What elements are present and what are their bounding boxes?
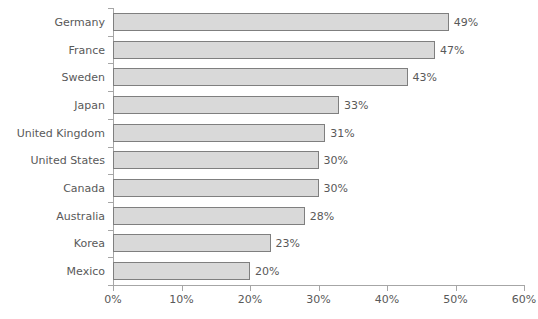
bar[interactable] [113, 96, 339, 114]
bar-row: 43% [113, 63, 524, 91]
x-axis-tick [387, 286, 388, 291]
bar[interactable] [113, 234, 271, 252]
bar-row: 23% [113, 230, 524, 258]
category-label-row: Canada [0, 174, 105, 202]
category-label: Korea [74, 238, 105, 249]
bar-row: 20% [113, 257, 524, 285]
bar-value-label: 20% [250, 266, 279, 277]
y-axis-tick [108, 8, 113, 9]
category-label: Sweden [62, 72, 105, 83]
bar-value-label: 33% [339, 99, 368, 110]
bar-row: 28% [113, 202, 524, 230]
bar[interactable] [113, 41, 435, 59]
y-axis-tick [108, 174, 113, 175]
bar-value-label: 30% [319, 183, 348, 194]
x-axis-tick [113, 286, 114, 291]
category-label-row: Sweden [0, 63, 105, 91]
bar[interactable] [113, 207, 305, 225]
bar[interactable] [113, 124, 325, 142]
category-label: Canada [63, 183, 105, 194]
bar-row: 30% [113, 174, 524, 202]
x-axis-tick [319, 286, 320, 291]
bar-chart: GermanyFranceSwedenJapanUnited KingdomUn… [0, 0, 538, 319]
bar-value-label: 49% [449, 16, 478, 27]
y-axis-tick [108, 36, 113, 37]
category-label: United States [31, 155, 106, 166]
y-axis-tick [108, 202, 113, 203]
bar-value-label: 30% [319, 155, 348, 166]
category-label-row: Korea [0, 230, 105, 258]
category-label-row: United States [0, 147, 105, 175]
bar[interactable] [113, 68, 408, 86]
y-axis-tick [108, 257, 113, 258]
category-label-row: Mexico [0, 257, 105, 285]
category-label: Mexico [67, 266, 105, 277]
category-label: Japan [74, 99, 105, 110]
x-axis-tick-label: 30% [306, 294, 330, 305]
category-label-row: Australia [0, 202, 105, 230]
y-axis-tick [108, 91, 113, 92]
category-label-row: Germany [0, 8, 105, 36]
bar-value-label: 47% [435, 44, 464, 55]
bar-value-label: 28% [305, 210, 334, 221]
x-axis-tick [524, 286, 525, 291]
bar-row: 49% [113, 8, 524, 36]
bar-value-label: 31% [325, 127, 354, 138]
bar-value-label: 43% [408, 72, 437, 83]
y-axis-tick [108, 63, 113, 64]
y-axis-tick [108, 147, 113, 148]
y-axis-tick [108, 119, 113, 120]
bar[interactable] [113, 262, 250, 280]
category-label: Germany [54, 16, 105, 27]
x-axis-tick [456, 286, 457, 291]
bar-value-label: 23% [271, 238, 300, 249]
y-axis-tick [108, 230, 113, 231]
bar-row: 33% [113, 91, 524, 119]
category-label-row: Japan [0, 91, 105, 119]
category-label-row: United Kingdom [0, 119, 105, 147]
bar-row: 31% [113, 119, 524, 147]
x-axis-tick-label: 40% [375, 294, 399, 305]
bar[interactable] [113, 179, 319, 197]
bar-row: 47% [113, 36, 524, 64]
x-axis-tick-label: 50% [443, 294, 467, 305]
category-label: Australia [56, 210, 105, 221]
x-axis-tick-label: 20% [238, 294, 262, 305]
category-label-row: France [0, 36, 105, 64]
category-label: France [68, 44, 105, 55]
plot-area: 49%47%43%33%31%30%30%28%23%20% [113, 8, 524, 285]
category-label: United Kingdom [17, 127, 105, 138]
x-axis-tick-label: 0% [104, 294, 121, 305]
x-axis-tick-label: 60% [512, 294, 536, 305]
bar-row: 30% [113, 147, 524, 175]
x-axis-tick [250, 286, 251, 291]
x-axis-tick [182, 286, 183, 291]
y-axis-category-labels: GermanyFranceSwedenJapanUnited KingdomUn… [0, 8, 105, 285]
x-axis-tick-label: 10% [169, 294, 193, 305]
bar[interactable] [113, 13, 449, 31]
bar[interactable] [113, 151, 319, 169]
